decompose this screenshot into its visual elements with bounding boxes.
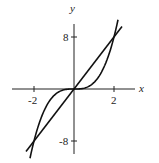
y-tick-label-neg8: -8 bbox=[59, 136, 68, 147]
y-tick-label-8: 8 bbox=[63, 32, 69, 43]
plot-area bbox=[0, 0, 159, 163]
x-tick-label-2: 2 bbox=[111, 95, 117, 106]
x-axis-label: x bbox=[139, 83, 144, 94]
y-axis-label: y bbox=[70, 3, 75, 14]
x-tick-label-neg2: -2 bbox=[28, 95, 37, 106]
